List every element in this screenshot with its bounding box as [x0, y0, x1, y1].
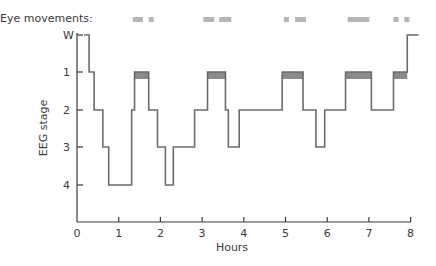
y-ticks: W1234	[63, 29, 83, 192]
rem-block	[346, 72, 372, 79]
eye-movement-bar	[394, 17, 399, 22]
eye-movement-bar	[149, 17, 154, 22]
rem-block	[135, 72, 149, 79]
x-tick-label: 8	[407, 227, 414, 240]
x-tick-label: 0	[74, 227, 81, 240]
rem-block	[282, 72, 303, 79]
rem-block	[394, 72, 408, 79]
x-tick-label: 5	[282, 227, 289, 240]
x-ticks: 012345678	[74, 217, 415, 240]
y-tick-label: 1	[63, 66, 70, 79]
x-tick-label: 6	[324, 227, 331, 240]
hypnogram-chart: Eye movements: 012345678 W1234 Hours EEG…	[0, 0, 436, 266]
x-tick-label: 7	[365, 227, 372, 240]
x-tick-label: 4	[240, 227, 247, 240]
eye-movement-bar	[203, 17, 214, 22]
eye-movement-bar	[219, 17, 231, 22]
eye-movement-bar	[404, 17, 409, 22]
eye-movement-bar	[133, 17, 143, 22]
eye-movement-bar	[295, 17, 306, 22]
y-tick-label: 3	[63, 141, 70, 154]
eye-movement-bar	[284, 17, 289, 22]
eye-movement-bars	[133, 17, 409, 22]
x-tick-label: 1	[115, 227, 122, 240]
y-tick-label: 2	[63, 104, 70, 117]
y-tick-label: W	[63, 29, 74, 42]
hypnogram-line	[84, 35, 418, 185]
eye-movements-label: Eye movements:	[0, 12, 93, 25]
rem-shading	[135, 72, 408, 79]
rem-block	[208, 72, 226, 79]
y-tick-label: 4	[63, 179, 70, 192]
y-axis-title: EEG stage	[37, 100, 50, 157]
x-tick-label: 3	[199, 227, 206, 240]
x-axis-title: Hours	[216, 241, 248, 254]
eye-movement-bar	[348, 17, 370, 22]
x-tick-label: 2	[157, 227, 164, 240]
